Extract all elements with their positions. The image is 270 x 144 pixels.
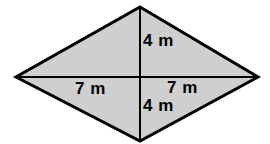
rhombus-figure: [0, 0, 270, 144]
label-right-horizontal-diagonal: 7 m: [167, 79, 198, 96]
label-left-horizontal-diagonal: 7 m: [75, 80, 106, 97]
label-lower-vertical-diagonal: 4 m: [143, 97, 174, 114]
label-upper-vertical-diagonal: 4 m: [143, 32, 174, 49]
rhombus-diagram: 4 m 7 m 7 m 4 m: [0, 0, 270, 144]
rhombus-shape: [16, 7, 258, 141]
